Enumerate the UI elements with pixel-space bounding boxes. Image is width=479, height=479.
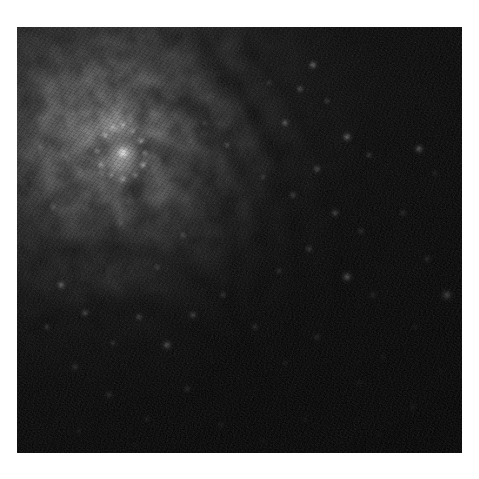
galaxy-image-canvas (17, 27, 462, 453)
film-grain (17, 27, 462, 453)
page-root (0, 0, 479, 479)
galaxy-photograph (17, 27, 462, 453)
